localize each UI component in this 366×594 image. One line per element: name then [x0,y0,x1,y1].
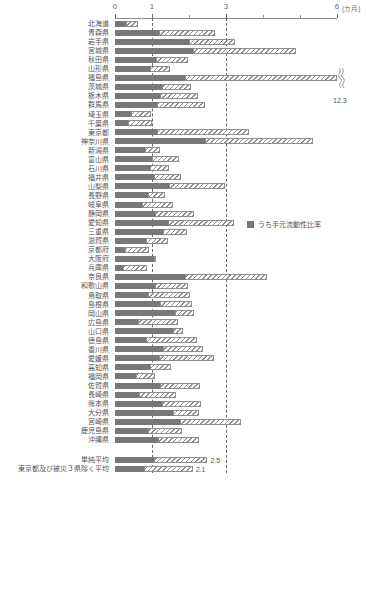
bar-row: 福井県 [0,173,366,182]
bar-segment-hatch [139,392,175,398]
bar-row: 佐賀県 [0,381,366,390]
bar-segment-hatch [163,229,187,235]
bar-segment-hatch [154,457,208,463]
row-label: 愛媛県 [0,354,112,363]
bar-wrap [115,354,366,363]
bar-segment-hatch [175,310,194,316]
bar-row: 東京都 [0,128,366,137]
bar-wrap [115,390,366,399]
bar-segment-hatch [145,147,161,153]
bar-row: 埼玉県 [0,110,366,119]
bar-segment-dark [115,202,142,208]
bar-wrap [115,381,366,390]
bar-segment-dark [115,319,138,325]
bar-segment-dark [115,401,162,407]
bar-row: 鳥取県 [0,291,366,300]
bar-wrap [115,254,366,263]
bar-segment-dark [115,238,146,244]
bar-wrap [115,345,366,354]
bar-wrap [115,209,366,218]
bar-segment-dark [115,66,150,72]
bar-segment-dark [115,419,180,425]
bar-segment-hatch [138,319,178,325]
axis-tick-6 [337,14,338,18]
bar-segment-dark [115,337,146,343]
bar-wrap [115,417,366,426]
bar-wrap [115,281,366,290]
row-label: 岡山県 [0,309,112,318]
bar-row: 岐阜県 [0,200,366,209]
bar-wrap [115,82,366,91]
bar-row: 栃木県 [0,91,366,100]
bar-segment-hatch [131,111,152,117]
bar-segment-dark [115,156,152,162]
bar-segment-dark [115,192,148,198]
bar-segment-hatch [156,57,187,63]
row-label: 鹿児島県 [0,426,112,435]
bar-row: 奈良県 [0,272,366,281]
legend: うち手元流動性比率 [247,219,321,229]
bar-segment-dark [115,428,148,434]
bar-segment-dark [115,229,163,235]
row-label: 福島県 [0,73,112,82]
bar-row: 滋賀県 [0,236,366,245]
bar-wrap [115,363,366,372]
bar-row: 大阪府 [0,254,366,263]
bar-wrap [115,137,366,146]
bar-segment-hatch [142,202,173,208]
bar-wrap [115,272,366,281]
bar-segment-dark [115,355,159,361]
bar-segment-dark [115,247,125,253]
bar-row: 岡山県 [0,309,366,318]
bar-segment-hatch [162,84,191,90]
bar-segment-dark [115,30,159,36]
bar-segment-dark [115,410,173,416]
row-label: 山口県 [0,327,112,336]
bar-segment-hatch [152,156,179,162]
bar-wrap: 2.5 [115,455,366,464]
row-label: 三重県 [0,227,112,236]
row-label: 兵庫県 [0,263,112,272]
bar-row: 岩手県 [0,37,366,46]
bar-wrap [115,227,366,236]
row-label: 石川県 [0,164,112,173]
bar-wrap [115,245,366,254]
bar-row: 長崎県 [0,390,366,399]
bar-segment-hatch [155,283,188,289]
bar-wrap [115,91,366,100]
bar-chart: 0136(カ月) 北海道青森県岩手県宮城県秋田県山形県福島県12.3茨城県栃木県… [0,0,366,594]
row-label: 福岡県 [0,372,112,381]
bar-wrap: 2.1 [115,464,366,473]
row-label: 長崎県 [0,390,112,399]
bar-row: 長野県 [0,191,366,200]
bar-segment-dark [115,111,131,117]
bar-segment-dark [115,165,150,171]
row-label: 宮崎県 [0,417,112,426]
bar-row: 鹿児島県 [0,426,366,435]
bar-row: 福岡県 [0,372,366,381]
bar-segment-hatch [150,364,171,370]
bar-row: 和歌山県 [0,281,366,290]
bar-segment-dark [115,138,205,144]
bar-wrap [115,64,366,73]
bar-segment-hatch [159,355,215,361]
bar-wrap [115,309,366,318]
bar-row: 福島県 [0,73,366,82]
row-label: 新潟県 [0,146,112,155]
bar-segment-hatch [123,265,147,271]
bar-wrap [115,110,366,119]
bar-wrap [115,408,366,417]
bar-row: 宮崎県 [0,417,366,426]
bar-segment-dark [115,466,144,472]
bar-rows: 北海道青森県岩手県宮城県秋田県山形県福島県12.3茨城県栃木県群馬県埼玉県千葉県… [0,19,366,473]
row-label: 埼玉県 [0,110,112,119]
bar-wrap [115,327,366,336]
bar-row: 香川県 [0,345,366,354]
bar-segment-hatch [148,192,164,198]
bar-segment-hatch [126,21,138,27]
row-label: 宮城県 [0,46,112,55]
row-label: 佐賀県 [0,381,112,390]
bar-row: 愛媛県 [0,354,366,363]
bar-segment-dark [115,48,193,54]
bar-segment-dark [115,392,139,398]
